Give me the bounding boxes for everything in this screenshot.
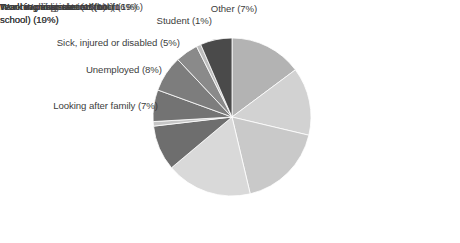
pie-label-looking-after-family: Looking after family (7%)	[8, 99, 158, 112]
pie-label-student: Student (1%)	[100, 14, 212, 27]
pie-label-unemployed: Unemployed (8%)	[38, 63, 162, 76]
pie-label-other: Other (7%)	[188, 2, 280, 15]
pie-label-sick-injured-or-disabled: Sick, injured or disabled (5%)	[12, 36, 180, 49]
pie-slice-group: Teaching in private school (16%)Teaching…	[153, 38, 311, 196]
pie-label-working-abroad: Working abroad (1%)	[24, 0, 114, 13]
pie-chart: Teaching in private school (16%)Teaching…	[0, 0, 460, 243]
